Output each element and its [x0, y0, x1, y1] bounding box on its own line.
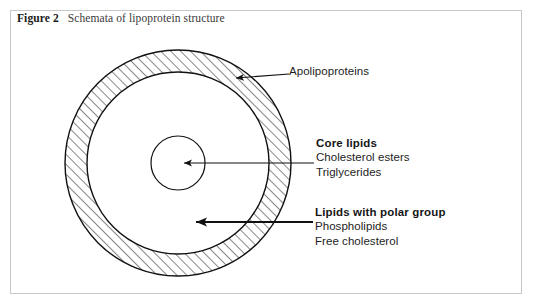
core-lipids-item-0: Cholesterol esters	[316, 150, 410, 165]
apolipoproteins-label: Apolipoproteins	[289, 64, 369, 79]
annotation-core-lipids: Core lipids Cholesterol esters Triglycer…	[316, 136, 410, 179]
core-lipids-item-1: Triglycerides	[316, 165, 410, 180]
annotation-apolipoproteins: Apolipoproteins	[289, 64, 369, 79]
polar-lipids-title: Lipids with polar group	[315, 205, 446, 219]
polar-lipids-item-0: Phospholipids	[315, 219, 446, 234]
annotation-polar-lipids: Lipids with polar group Phospholipids Fr…	[315, 205, 446, 248]
polar-lipids-item-1: Free cholesterol	[315, 234, 446, 249]
outer-shell-region	[0, 0, 540, 308]
lipoprotein-diagram	[0, 0, 540, 308]
core-lipids-title: Core lipids	[316, 136, 410, 150]
